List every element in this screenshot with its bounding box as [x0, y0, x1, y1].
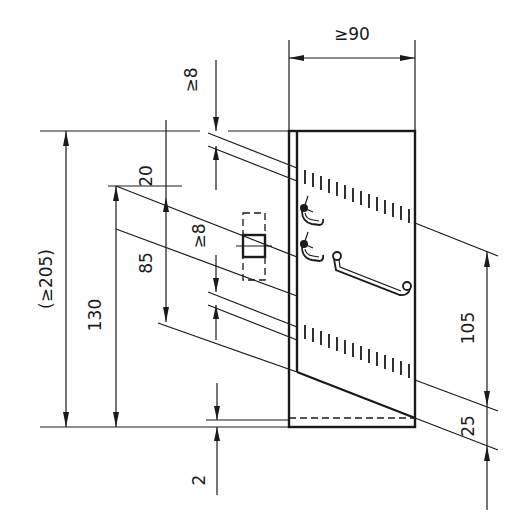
door-hook-lower [300, 232, 323, 261]
label-lower-height: 130 [85, 299, 105, 331]
label-top-gap: ≥8 [181, 67, 201, 92]
door-hook-upper [300, 196, 323, 225]
label-right-25: 25 [458, 415, 478, 437]
label-overall-height: (≥205) [36, 249, 56, 309]
vent-slots-upper [305, 170, 409, 223]
cabinet-outline [289, 131, 415, 427]
technical-drawing: ≥90 ≥8 (≥205) 130 20 85 ≥8 [0, 0, 521, 520]
dimension-width-top: ≥90 [289, 24, 415, 61]
dimension-top-gap: ≥8 [181, 60, 219, 190]
vent-slots-lower [305, 325, 409, 378]
label-spacing-20: 20 [136, 165, 156, 187]
label-right-105: 105 [458, 312, 478, 344]
dimension-lower-height: 130 [85, 186, 119, 427]
dimension-spacing: 20 85 [136, 120, 169, 322]
dimension-overall-height: (≥205) [36, 131, 69, 427]
label-width-top: ≥90 [334, 24, 370, 44]
slanted-bottom-edge [297, 372, 415, 418]
dimension-bottom-2: 2 [189, 383, 220, 495]
cabinet-body [289, 131, 415, 427]
label-middle-gap: ≥8 [189, 223, 209, 248]
dimension-middle-gap: ≥8 [189, 223, 219, 340]
mounting-bracket-symbol [236, 213, 272, 280]
label-spacing-85: 85 [136, 252, 156, 274]
horizontal-reference-lines [40, 40, 415, 427]
label-bottom-2: 2 [189, 475, 209, 486]
long-bar-handle [333, 252, 411, 295]
slanted-extension-lines [116, 133, 498, 450]
dimension-right-side: 105 25 [458, 252, 490, 510]
